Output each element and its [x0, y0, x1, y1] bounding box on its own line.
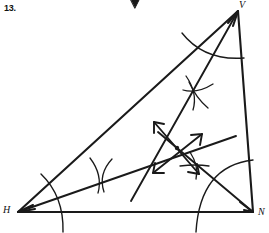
bisector-from-H [18, 136, 236, 212]
geometry-figure [0, 0, 269, 233]
double-arrow-downleft-upright [153, 134, 202, 173]
incenter-point [175, 146, 179, 150]
bisector-from-V [131, 11, 238, 201]
arc-cross-left [90, 158, 112, 193]
vertex-label-H: H [3, 204, 10, 215]
side-VN [238, 11, 253, 212]
vertex-label-V: V [239, 0, 245, 10]
page-top-arrow-marker-icon [128, 0, 142, 8]
vertex-label-N: N [258, 206, 265, 217]
side-HV [18, 11, 238, 212]
